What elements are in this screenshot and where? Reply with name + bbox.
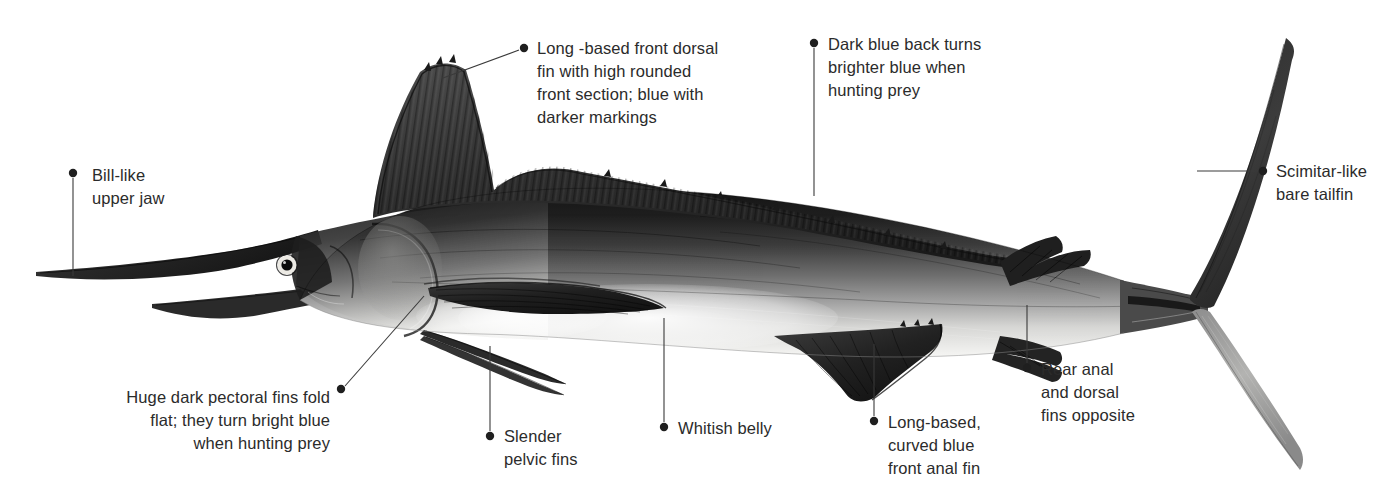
callout-slender-pelvic-fins: Slender pelvic fins: [504, 425, 578, 471]
front-anal-fin: [774, 324, 943, 401]
callout-long-based-curved-front-anal-fin: Long-based, curved blue front anal fin: [888, 411, 981, 480]
eye-pupil: [281, 259, 292, 270]
callout-long-based-front-dorsal-fin: Long -based front dorsal fin with high r…: [537, 37, 718, 129]
callout-huge-dark-pectoral-fins: Huge dark pectoral fins fold flat; they …: [126, 386, 330, 455]
callout-bill-like-upper-jaw: Bill-like upper jaw: [92, 164, 164, 210]
marlin-figure: Bill-like upper jawLong -based front dor…: [0, 0, 1399, 495]
eye-highlight: [283, 261, 286, 264]
callout-scimitar-like-bare-tailfin: Scimitar-like bare tailfin: [1276, 160, 1367, 206]
callout-rear-anal-and-dorsal-fins: Rear anal and dorsal fins opposite: [1041, 358, 1135, 427]
callout-whitish-belly: Whitish belly: [678, 417, 772, 440]
callout-dark-blue-back: Dark blue back turns brighter blue when …: [828, 33, 981, 102]
tail-fin-lower-lobe: [1192, 309, 1303, 470]
